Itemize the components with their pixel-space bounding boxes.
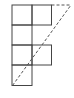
square-cell-r2-c1 <box>12 25 32 45</box>
square-net-diagram <box>0 0 74 98</box>
square-cell-r4-c1 <box>12 65 32 86</box>
square-cell-r1-c2 <box>32 5 52 25</box>
square-cell-r1-c1 <box>12 5 32 25</box>
square-cell-r3-c1 <box>12 45 32 65</box>
grid-cells <box>12 5 52 86</box>
